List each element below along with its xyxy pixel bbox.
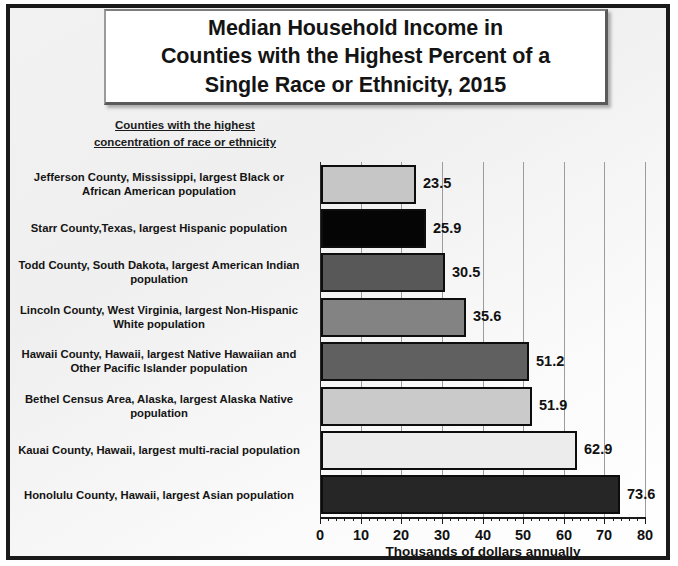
x-tick-14 (377, 517, 378, 521)
bar-2 (321, 253, 445, 292)
category-label-6: Kauai County, Hawaii, largest multi-raci… (2, 443, 316, 457)
x-tick-76 (629, 517, 630, 521)
bar-0 (321, 165, 416, 204)
category-label-5: Bethel Census Area, Alaska, largest Alas… (2, 392, 316, 421)
x-tick-60 (564, 517, 565, 524)
x-tick-label-70: 70 (596, 527, 612, 543)
x-tick-34 (458, 517, 459, 521)
x-tick-50 (523, 517, 524, 524)
x-tick-2 (328, 517, 329, 521)
bar-6 (321, 431, 577, 470)
plot-area: 23.525.930.535.651.251.962.973.6 Jeffers… (0, 0, 678, 566)
x-tick-label-10: 10 (353, 527, 369, 543)
x-tick-10 (361, 517, 362, 524)
x-tick-6 (344, 517, 345, 521)
x-tick-16 (385, 517, 386, 521)
x-tick-46 (507, 517, 508, 521)
category-label-4: Hawaii County, Hawaii, largest Native Ha… (2, 347, 316, 376)
bar-value-label-3: 35.6 (473, 308, 501, 324)
gridline-80 (645, 162, 646, 517)
x-tick-36 (466, 517, 467, 521)
bar-3 (321, 298, 466, 337)
x-tick-38 (474, 517, 475, 521)
x-tick-0 (320, 517, 321, 524)
category-label-1: Starr County,Texas, largest Hispanic pop… (2, 221, 316, 235)
bar-value-label-7: 73.6 (627, 486, 655, 502)
x-tick-label-30: 30 (434, 527, 450, 543)
x-tick-label-20: 20 (393, 527, 409, 543)
category-label-3: Lincoln County, West Virginia, largest N… (2, 303, 316, 332)
category-label-0: Jefferson County, Mississippi, largest B… (2, 170, 316, 199)
x-tick-52 (531, 517, 532, 521)
x-tick-label-60: 60 (556, 527, 572, 543)
x-tick-20 (401, 517, 402, 524)
x-tick-label-50: 50 (515, 527, 531, 543)
gridline-70 (604, 162, 605, 517)
x-axis-label: Thousands of dollars annually (320, 544, 646, 559)
x-tick-66 (588, 517, 589, 521)
bar-7 (321, 475, 620, 514)
x-tick-26 (426, 517, 427, 521)
x-tick-56 (548, 517, 549, 521)
x-tick-30 (442, 517, 443, 524)
x-tick-label-0: 0 (316, 527, 324, 543)
x-tick-80 (645, 517, 646, 524)
x-tick-4 (336, 517, 337, 521)
bar-value-label-0: 23.5 (423, 175, 451, 191)
chart-canvas: Median Household Income in Counties with… (0, 0, 678, 566)
x-tick-64 (580, 517, 581, 521)
x-tick-72 (613, 517, 614, 521)
x-tick-18 (393, 517, 394, 521)
x-tick-label-40: 40 (475, 527, 491, 543)
bar-value-label-6: 62.9 (584, 441, 612, 457)
x-tick-54 (539, 517, 540, 521)
x-tick-74 (621, 517, 622, 521)
x-tick-label-80: 80 (637, 527, 653, 543)
bar-4 (321, 342, 529, 381)
x-tick-40 (483, 517, 484, 524)
x-tick-22 (409, 517, 410, 521)
x-tick-32 (450, 517, 451, 521)
x-tick-42 (491, 517, 492, 521)
bar-1 (321, 209, 426, 248)
bar-value-label-1: 25.9 (433, 220, 461, 236)
x-tick-24 (418, 517, 419, 521)
x-tick-68 (596, 517, 597, 521)
x-tick-62 (572, 517, 573, 521)
x-tick-78 (637, 517, 638, 521)
category-label-2: Todd County, South Dakota, largest Ameri… (2, 258, 316, 287)
x-tick-12 (369, 517, 370, 521)
x-tick-70 (604, 517, 605, 524)
x-tick-58 (556, 517, 557, 521)
bar-value-label-4: 51.2 (536, 353, 564, 369)
x-tick-8 (353, 517, 354, 521)
x-tick-48 (515, 517, 516, 521)
bar-5 (321, 387, 532, 426)
x-tick-28 (434, 517, 435, 521)
bar-value-label-2: 30.5 (452, 264, 480, 280)
category-label-7: Honolulu County, Hawaii, largest Asian p… (2, 488, 316, 502)
x-tick-44 (499, 517, 500, 521)
bar-value-label-5: 51.9 (539, 397, 567, 413)
